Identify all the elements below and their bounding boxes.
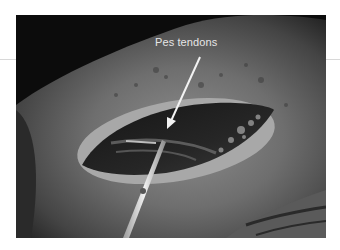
arrow-icon [16, 15, 326, 238]
surgical-photo [16, 15, 326, 238]
annotation-label: Pes tendons [155, 36, 217, 48]
